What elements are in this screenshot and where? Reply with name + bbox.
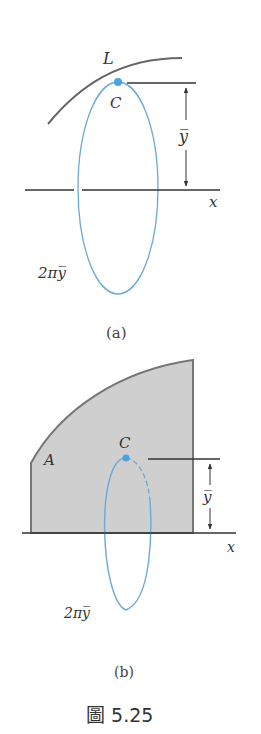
part-b: C A y̅ x 2πy̅ (b) [22, 360, 236, 680]
centroid-label: C [119, 434, 131, 452]
part-label: (a) [106, 324, 127, 342]
part-label: (b) [114, 664, 134, 680]
distance-label: y̅ [202, 488, 212, 506]
ring-label: 2πy̅ [63, 605, 91, 621]
centroid-point [114, 78, 122, 86]
ring-label: 2πy̅ [37, 264, 66, 282]
area-label: A [42, 451, 55, 469]
figure-caption: 圖 5.25 [86, 704, 153, 726]
centroid-point [123, 455, 130, 462]
part-a: L C y̅ x 2πy̅ (a) [25, 49, 220, 342]
rotation-ring [78, 82, 158, 294]
axis-label: x [227, 539, 235, 555]
shaded-area-A [31, 360, 193, 533]
axis-label: x [209, 193, 218, 211]
distance-label: y̅ [178, 127, 189, 146]
curve-L [48, 58, 182, 124]
centroid-label: C [110, 94, 122, 112]
figure-5-25: L C y̅ x 2πy̅ (a) C A y̅ x 2πy̅ (b) 圖 5.… [0, 0, 261, 734]
curve-label: L [102, 49, 114, 68]
